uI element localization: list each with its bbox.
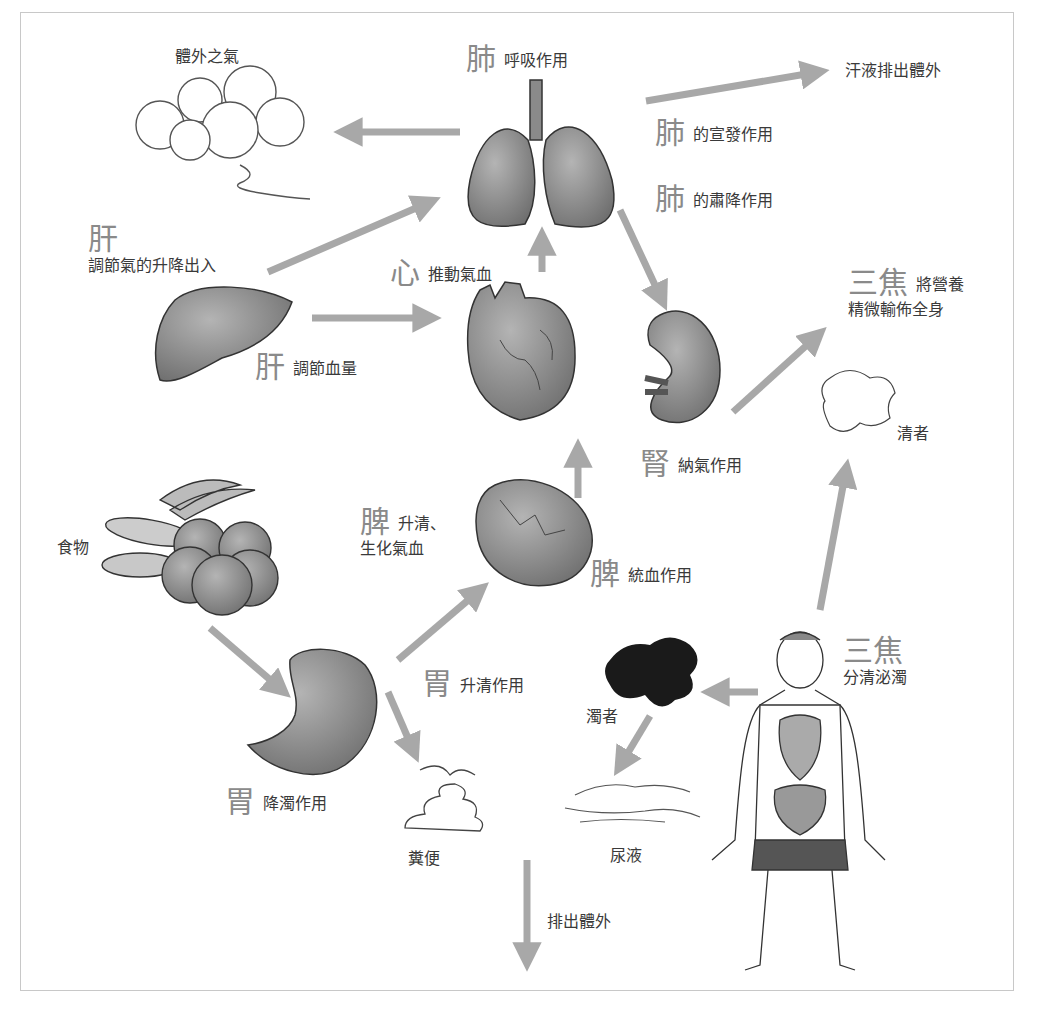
food-text: 食物 bbox=[57, 538, 89, 557]
label-stomach-rise: 胃升清作用 bbox=[422, 667, 524, 702]
arrow-kidney-to-sanjiao bbox=[733, 335, 818, 412]
label-clear: 清者 bbox=[897, 425, 929, 443]
spleen-rise-text: 升清、 bbox=[398, 514, 446, 533]
label-lung-dispersing: 肺的宣發作用 bbox=[655, 116, 773, 151]
arrow-food-to-stomach bbox=[210, 628, 282, 690]
organ-spleen: 脾 bbox=[360, 504, 390, 539]
sanjiao-separate-text: 分清泌濁 bbox=[843, 669, 911, 687]
spleen-rise-text2: 生化氣血 bbox=[360, 540, 446, 558]
label-stomach-descend: 胃降濁作用 bbox=[225, 785, 327, 820]
organ-lung: 肺 bbox=[655, 181, 685, 216]
arrow-stomach-to-spleen bbox=[398, 590, 480, 660]
label-sanjiao-nourish: 三焦將營養 精微輸佈全身 bbox=[848, 266, 964, 319]
food-icon bbox=[102, 480, 278, 615]
label-liver-qi: 肝 調節氣的升降出入 bbox=[88, 222, 216, 275]
liver-qi-text: 調節氣的升降出入 bbox=[88, 257, 216, 275]
organ-lung: 肺 bbox=[466, 41, 496, 76]
sweat-text: 汗液排出體外 bbox=[845, 61, 941, 80]
feces-text: 糞便 bbox=[408, 849, 440, 868]
external-qi-text: 體外之氣 bbox=[175, 47, 239, 66]
urine-icon bbox=[565, 785, 700, 822]
label-kidney: 腎納氣作用 bbox=[640, 447, 742, 482]
stomach-descend-text: 降濁作用 bbox=[263, 794, 327, 813]
organ-lung: 肺 bbox=[655, 115, 685, 150]
lung-dispersing-text: 的宣發作用 bbox=[693, 125, 773, 144]
label-turbid: 濁者 bbox=[586, 708, 618, 726]
turbid-text: 濁者 bbox=[586, 707, 618, 726]
label-heart: 心推動氣血 bbox=[390, 256, 492, 291]
turbid-icon bbox=[605, 638, 698, 707]
spleen-blood-text: 統血作用 bbox=[628, 566, 692, 585]
clear-essence-icon bbox=[822, 371, 895, 432]
kidney-icon bbox=[645, 311, 720, 422]
label-food: 食物 bbox=[57, 539, 89, 557]
sanjiao-nourish-text2: 精微輸佈全身 bbox=[848, 301, 964, 319]
organ-heart: 心 bbox=[390, 255, 420, 290]
excrete-text: 排出體外 bbox=[547, 912, 611, 931]
label-excrete: 排出體外 bbox=[547, 913, 611, 931]
label-spleen-blood: 脾統血作用 bbox=[590, 557, 692, 592]
diagram-artwork bbox=[0, 0, 1038, 1016]
arrow-lung-to-kidney bbox=[620, 210, 662, 300]
lung-breath-text: 呼吸作用 bbox=[504, 51, 568, 70]
organ-kidney: 腎 bbox=[640, 446, 670, 481]
clear-text: 清者 bbox=[897, 424, 929, 443]
liver-blood-text: 調節血量 bbox=[293, 359, 357, 378]
label-spleen-rise: 脾升清、 生化氣血 bbox=[360, 505, 446, 558]
label-sanjiao-separate: 三焦 分清泌濁 bbox=[843, 634, 911, 687]
feces-icon bbox=[405, 766, 483, 831]
organ-liver: 肝 bbox=[88, 222, 208, 257]
heart-text: 推動氣血 bbox=[428, 265, 492, 284]
stomach-icon bbox=[248, 649, 377, 774]
organ-sanjiao: 三焦 bbox=[843, 634, 903, 669]
heart-icon bbox=[468, 282, 575, 420]
label-urine: 尿液 bbox=[610, 847, 642, 865]
label-liver-blood: 肝調節血量 bbox=[255, 350, 357, 385]
organ-sanjiao: 三焦 bbox=[848, 265, 908, 300]
lung-descending-text: 的肅降作用 bbox=[693, 191, 773, 210]
label-lung-descending: 肺的肅降作用 bbox=[655, 182, 773, 217]
label-external-qi: 體外之氣 bbox=[175, 48, 239, 66]
organ-stomach: 胃 bbox=[225, 784, 255, 819]
stomach-rise-text: 升清作用 bbox=[460, 676, 524, 695]
sanjiao-nourish-text: 將營養 bbox=[916, 275, 964, 294]
label-feces: 糞便 bbox=[408, 850, 440, 868]
arrow-lung-to-sweat bbox=[646, 72, 818, 101]
arrow-sanjiao-to-clear bbox=[820, 470, 846, 610]
cloud-icon bbox=[136, 66, 310, 199]
kidney-text: 納氣作用 bbox=[678, 456, 742, 475]
arrow-stomach-to-feces bbox=[388, 692, 414, 752]
lungs-icon bbox=[468, 80, 614, 227]
arrow-turbid-to-urine bbox=[620, 716, 650, 766]
label-sweat: 汗液排出體外 bbox=[845, 62, 941, 80]
organ-liver: 肝 bbox=[255, 349, 285, 384]
label-lung-breath: 肺呼吸作用 bbox=[466, 42, 568, 77]
urine-text: 尿液 bbox=[610, 846, 642, 865]
organ-spleen: 脾 bbox=[590, 556, 620, 591]
organ-stomach: 胃 bbox=[422, 666, 452, 701]
